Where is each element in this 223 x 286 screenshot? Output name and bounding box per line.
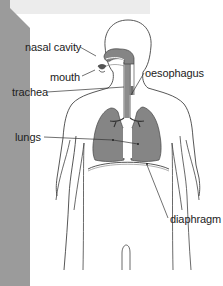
diaphragm <box>88 162 169 171</box>
label-diaphragm: diaphragm <box>170 213 221 225</box>
label-oesophagus: oesophagus <box>145 67 204 79</box>
nasal-cavity <box>104 49 134 64</box>
right-lung <box>131 107 161 162</box>
top-band <box>10 0 150 14</box>
label-mouth: mouth <box>50 71 80 83</box>
label-nasal-cavity: nasal cavity <box>25 41 81 53</box>
label-trachea: trachea <box>12 86 48 98</box>
left-lung <box>93 108 124 162</box>
respiratory-diagram: nasal cavity mouth oesophagus trachea lu… <box>0 0 223 286</box>
label-lungs: lungs <box>15 131 41 143</box>
